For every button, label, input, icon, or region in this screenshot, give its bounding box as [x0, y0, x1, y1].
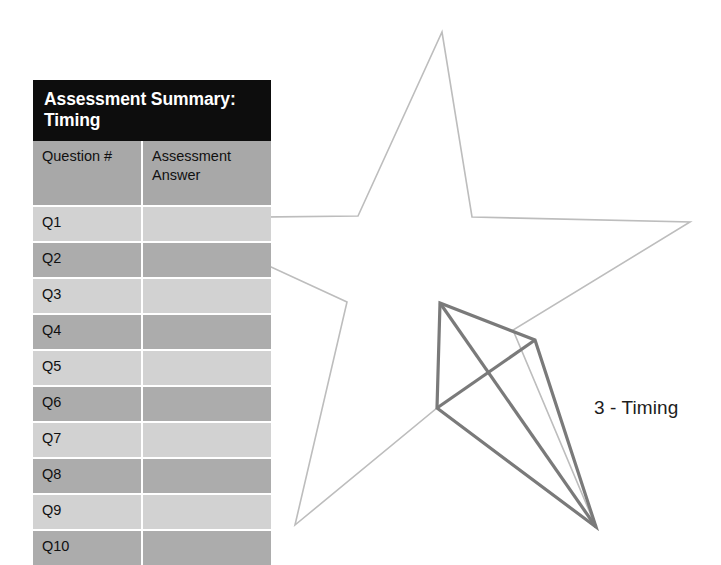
kite-diagonal-left-right — [437, 340, 535, 408]
table-row: Q5 — [33, 351, 271, 387]
cell-question-number: Q5 — [33, 351, 143, 387]
assessment-summary-table: Assessment Summary: Timing Question # As… — [33, 80, 271, 565]
table-row: Q1 — [33, 207, 271, 243]
kite-diagonal-top-bottom — [440, 303, 596, 527]
cell-assessment-answer — [143, 279, 271, 315]
cell-assessment-answer — [143, 531, 271, 565]
table-row: Q2 — [33, 243, 271, 279]
table-row: Q6 — [33, 387, 271, 423]
table-row: Q8 — [33, 459, 271, 495]
table-title: Assessment Summary: Timing — [33, 80, 271, 141]
cell-question-number: Q10 — [33, 531, 143, 565]
cell-question-number: Q1 — [33, 207, 143, 243]
diagram-label: 3 - Timing — [594, 397, 678, 419]
summary-table-grid: Question # Assessment Answer Q1Q2Q3Q4Q5Q… — [33, 141, 271, 565]
cell-assessment-answer — [143, 243, 271, 279]
cell-assessment-answer — [143, 315, 271, 351]
table-row: Q9 — [33, 495, 271, 531]
cell-question-number: Q7 — [33, 423, 143, 459]
table-row: Q7 — [33, 423, 271, 459]
column-header-question: Question # — [33, 141, 143, 207]
table-body: Q1Q2Q3Q4Q5Q6Q7Q8Q9Q10 — [33, 207, 271, 565]
cell-assessment-answer — [143, 495, 271, 531]
cell-question-number: Q3 — [33, 279, 143, 315]
cell-question-number: Q6 — [33, 387, 143, 423]
table-header-row: Question # Assessment Answer — [33, 141, 271, 207]
cell-question-number: Q4 — [33, 315, 143, 351]
column-header-answer: Assessment Answer — [143, 141, 271, 207]
cell-assessment-answer — [143, 423, 271, 459]
cell-assessment-answer — [143, 387, 271, 423]
cell-question-number: Q8 — [33, 459, 143, 495]
cell-assessment-answer — [143, 459, 271, 495]
cell-assessment-answer — [143, 351, 271, 387]
table-row: Q3 — [33, 279, 271, 315]
cell-question-number: Q2 — [33, 243, 143, 279]
table-row: Q10 — [33, 531, 271, 565]
table-row: Q4 — [33, 315, 271, 351]
cell-question-number: Q9 — [33, 495, 143, 531]
cell-assessment-answer — [143, 207, 271, 243]
